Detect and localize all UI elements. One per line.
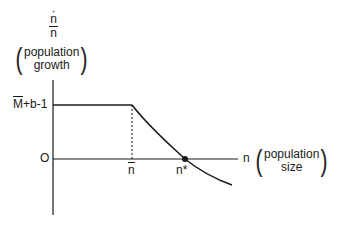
y-axis-numerator: n	[50, 14, 57, 25]
y-axis-symbol: · n n	[49, 8, 58, 39]
x-axis-description: ( population size )	[254, 146, 329, 176]
y-axis-desc-line2: growth	[34, 59, 70, 72]
y-tick-upper-rest: +b-1	[23, 97, 47, 111]
y-axis-denominator: n	[50, 28, 57, 39]
close-paren: )	[321, 146, 328, 176]
equilibrium-point	[182, 156, 188, 162]
x-axis-desc-line2: size	[281, 161, 302, 174]
y-tick-origin: O	[40, 152, 49, 165]
y-axis-description: ( population growth )	[14, 44, 89, 74]
open-paren: (	[16, 44, 23, 74]
x-tick-n-star: n*	[176, 164, 187, 177]
x-axis-symbol: n	[243, 152, 250, 165]
x-tick-n-bar: n	[128, 164, 135, 177]
open-paren: (	[256, 146, 263, 176]
m-bar: M	[13, 97, 23, 111]
close-paren: )	[81, 44, 88, 74]
y-tick-upper: M+b-1	[13, 98, 47, 111]
